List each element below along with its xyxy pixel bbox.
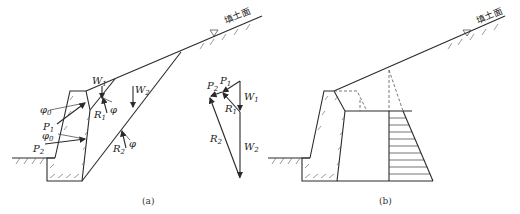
label-W1: W1	[92, 75, 107, 88]
label-W2: W2	[135, 84, 150, 97]
ground-hatch-left-b	[272, 158, 300, 164]
label-phi0-1: φ0	[40, 104, 52, 117]
poly-label-P1: P1	[219, 75, 231, 88]
angle-line-P2	[58, 134, 85, 139]
label-phi-1: φ	[110, 104, 117, 115]
surface-hatch-b	[448, 24, 498, 49]
label-P2: P2	[32, 143, 45, 156]
panel-a-retaining-wall-diagram: 填土面 W1 R1 φ W2 R2 φ φ0 P1 φ0 P2	[12, 5, 262, 206]
dashed-slant	[389, 70, 403, 111]
retaining-wall-outline-b	[302, 91, 345, 181]
ground-hatch-left	[16, 158, 44, 164]
label-phi-2: φ	[129, 138, 136, 149]
arrow-R1	[103, 98, 107, 113]
caption-a: (a)	[142, 196, 154, 206]
poly-label-P2: P2	[206, 80, 219, 93]
fill-surface-line-b	[334, 16, 505, 91]
fill-surface-line	[86, 16, 262, 91]
poly-label-R1: R1	[224, 103, 237, 116]
label-R2: R2	[112, 143, 126, 156]
surface-hatch	[200, 24, 250, 49]
force-polygon: P1 P2 W1 R1 R2 W2	[206, 75, 259, 178]
poly-label-W2: W2	[244, 141, 259, 154]
poly-label-W1: W1	[244, 91, 259, 104]
caption-b: (b)	[379, 196, 392, 206]
poly-label-R2: R2	[209, 133, 223, 146]
panel-b-retaining-wall-diagram: 填土面 (b)	[268, 5, 505, 206]
label-R1: R1	[93, 109, 106, 122]
